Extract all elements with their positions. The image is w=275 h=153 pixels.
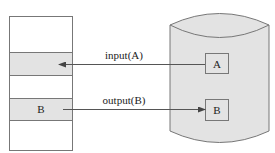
output-arrow-label: output(B) — [103, 94, 146, 107]
buffer-block-b-label: B — [37, 103, 44, 115]
disk-block-a-label: A — [213, 58, 221, 70]
buffer-disk-diagram: B A B input(A) output(B) — [0, 0, 275, 153]
disk-block-b-label: B — [213, 104, 220, 116]
input-arrow-label: input(A) — [105, 49, 143, 62]
buffer-outline — [10, 17, 73, 151]
memory-buffer: B — [10, 17, 73, 151]
disk-body — [170, 14, 269, 143]
disk-cylinder: A B — [170, 14, 269, 143]
